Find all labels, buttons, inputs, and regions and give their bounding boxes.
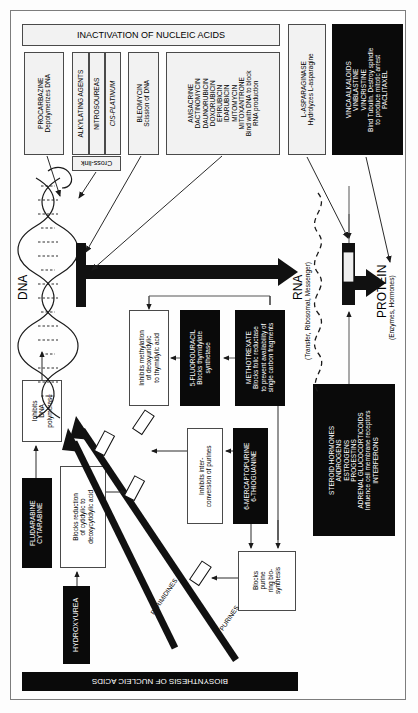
- box-vinca-alkaloids: VINCA ALKALOIDS VINBLASTINE VINCRISTINE …: [332, 24, 403, 155]
- box-l-asparaginase: L-ASPARAGINASE Hydrolyzes L-asparagine: [288, 24, 326, 155]
- box-inhibits-methylation: Inhibits methylation of deoxyuridylic to…: [129, 310, 169, 406]
- box-fludarabine-cytarabine-text: FLUDARABINE CYTARABINE: [30, 500, 45, 546]
- label-protein-sub: (Enzymes, Hormones): [388, 275, 395, 340]
- box-steroid-hormones: STEROID HORMONES ANDROGENS ESTROGENS PRO…: [313, 384, 395, 536]
- box-hydroxyurea: HYDROXYUREA: [63, 586, 90, 664]
- box-5-fluorouracil: 5-FLUOROURACIL Blocks thymidylate synthe…: [180, 310, 220, 406]
- box-inhibits-methylation-text: Inhibits methylation of deoxyuridylic to…: [138, 330, 160, 386]
- box-6-mercaptopurine-text: 6-MERCAPTOPURINE 6-THIOGUANINE: [243, 442, 258, 509]
- box-methotrexate-text: METHOTREXATE Blocks folic reductase to p…: [245, 323, 274, 392]
- box-fludarabine-cytarabine: FLUDARABINE CYTARABINE: [22, 478, 52, 568]
- box-nitrosoureas: NITROSOUREAS: [89, 52, 105, 155]
- diagram-canvas: INACTIVATION OF NUCLEIC ACIDS PROCARBAZI…: [0, 0, 418, 713]
- label-rna: RNA: [291, 275, 305, 300]
- box-inhibits-dna-polymerase-text: Inhibits DNA polymerase: [31, 394, 53, 428]
- box-hydroxyurea-text: HYDROXYUREA: [73, 598, 81, 652]
- box-cis-platinum-text: CIS-PLATINUM: [109, 81, 116, 126]
- box-5-fluorouracil-text: 5-FLUOROURACIL Blocks thymidylate synthe…: [189, 330, 211, 387]
- box-blocks-purine-ring-text: Blocks purine ring bio- synthesis: [252, 567, 281, 594]
- box-intercalators: AMSACRINE DACTINOMYCIN DAUNORUBICIN DOXO…: [166, 52, 280, 155]
- box-6-mercaptopurine: 6-MERCAPTOPURINE 6-THIOGUANINE: [233, 428, 268, 524]
- box-steroid-hormones-text: STEROID HORMONES ANDROGENS ESTROGENS PRO…: [329, 410, 380, 510]
- box-bleomycin-text: BLEOMYCIN Scission of DNA: [136, 80, 151, 127]
- box-inhibits-interconversion: Inhibits inter- conversion of purines: [187, 428, 223, 524]
- box-vinca-alkaloids-text: VINCA ALKALOIDS VINBLASTINE VINCRISTINE …: [346, 47, 390, 131]
- box-nitrosoureas-text: NITROSOUREAS: [93, 77, 100, 129]
- box-intercalators-text: AMSACRINE DACTINOMYCIN DAUNORUBICIN DOXO…: [187, 71, 260, 137]
- box-procarbazine: PROCARBAZINE Depolymerizes DNA: [24, 52, 64, 155]
- header-banner-label: INACTIVATION OF NUCLEIC ACIDS: [77, 30, 225, 40]
- footer-banner: BIOSYNTHESIS OF NUCLEIC ACIDS: [22, 672, 298, 691]
- box-cross-link: Cross-link: [72, 156, 121, 171]
- box-procarbazine-text: PROCARBAZINE Depolymerizes DNA: [37, 74, 52, 133]
- footer-banner-label: BIOSYNTHESIS OF NUCLEIC ACIDS: [92, 677, 228, 686]
- label-dna: DNA: [16, 275, 30, 300]
- box-cross-link-text: Cross-link: [81, 160, 112, 167]
- box-methotrexate: METHOTREXATE Blocks folic reductase to p…: [235, 310, 285, 406]
- box-alkylating-agents-text: ALKYLATING AGENTS: [77, 70, 84, 138]
- label-protein: PROTEIN: [375, 265, 389, 318]
- label-rna-sub: (Transfer, Ribosomal, Messenger): [304, 262, 311, 360]
- box-inhibits-dna-polymerase: Inhibits DNA polymerase: [22, 380, 62, 442]
- box-alkylating-agents: ALKYLATING AGENTS: [72, 52, 89, 155]
- header-banner: INACTIVATION OF NUCLEIC ACIDS: [22, 24, 280, 46]
- box-cis-platinum: CIS-PLATINUM: [105, 52, 121, 155]
- box-l-asparaginase-text: L-ASPARAGINASE Hydrolyzes L-asparagine: [300, 54, 315, 126]
- box-blocks-reduction-text: Blocks reduction of cytidylic to deoxycy…: [72, 490, 94, 544]
- box-blocks-purine-ring: Blocks purine ring bio- synthesis: [238, 551, 296, 611]
- box-blocks-reduction: Blocks reduction of cytidylic to deoxycy…: [60, 466, 106, 568]
- box-inhibits-interconversion-text: Inhibits inter- conversion of purines: [198, 445, 213, 507]
- box-bleomycin: BLEOMYCIN Scission of DNA: [128, 52, 159, 155]
